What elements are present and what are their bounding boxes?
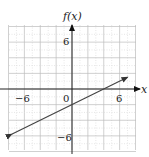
y-axis-label: f(x) xyxy=(62,10,82,23)
function-line xyxy=(12,77,128,134)
x-tick-pos6: 6 xyxy=(116,93,122,104)
function-graph: f(x) x −6 0 6 6 −6 xyxy=(0,0,149,157)
y-tick-pos6: 6 xyxy=(63,36,69,47)
x-tick-neg6: −6 xyxy=(15,93,30,104)
x-axis-label: x xyxy=(141,83,148,96)
x-tick-zero: 0 xyxy=(63,93,69,104)
y-tick-neg6: −6 xyxy=(57,132,72,143)
